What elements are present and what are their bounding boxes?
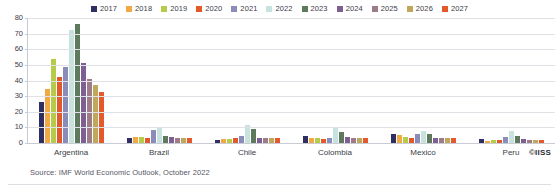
- gridline: [28, 112, 555, 113]
- legend-item-2023[interactable]: 2023: [302, 5, 328, 13]
- y-tickmark: [25, 81, 28, 82]
- grid-area: [27, 18, 555, 143]
- bar-colombia-2017[interactable]: [303, 136, 308, 143]
- plot-area: 01020304050607080 ArgentinaBrazilChileCo…: [0, 18, 559, 146]
- legend-item-2022[interactable]: 2022: [266, 5, 292, 13]
- legend-label: 2025: [381, 5, 398, 13]
- legend-swatch-icon: [196, 6, 202, 12]
- bar-argentina-2027[interactable]: [99, 92, 104, 143]
- bar-argentina-2018[interactable]: [45, 89, 50, 143]
- y-tickmark: [25, 143, 28, 144]
- iiss-copyright: ©IISS: [529, 148, 551, 157]
- bar-mexico-2018[interactable]: [397, 135, 402, 143]
- y-tickmark: [25, 65, 28, 66]
- y-tickmark: [25, 112, 28, 113]
- y-tickmark: [25, 34, 28, 35]
- legend-item-2020[interactable]: 2020: [196, 5, 222, 13]
- bar-argentina-2023[interactable]: [75, 24, 80, 143]
- gridline: [28, 65, 555, 66]
- legend-item-2024[interactable]: 2024: [337, 5, 363, 13]
- legend-item-2026[interactable]: 2026: [407, 5, 433, 13]
- legend-label: 2018: [135, 5, 152, 13]
- legend-swatch-icon: [302, 6, 308, 12]
- legend-item-2027[interactable]: 2027: [442, 5, 468, 13]
- x-axis-label-colombia: Colombia: [291, 146, 379, 160]
- y-tickmark: [25, 127, 28, 128]
- legend-item-2021[interactable]: 2021: [231, 5, 257, 13]
- bar-argentina-2022[interactable]: [69, 30, 74, 143]
- legend-label: 2022: [275, 5, 292, 13]
- legend-item-2018[interactable]: 2018: [126, 5, 152, 13]
- legend-swatch-icon: [337, 6, 343, 12]
- bar-argentina-2017[interactable]: [39, 102, 44, 143]
- gridline: [28, 96, 555, 97]
- bar-mexico-2022[interactable]: [421, 131, 426, 144]
- legend-swatch-icon: [91, 6, 97, 12]
- y-tick-label: 70: [15, 30, 23, 38]
- legend-item-2017[interactable]: 2017: [91, 5, 117, 13]
- legend-swatch-icon: [442, 6, 448, 12]
- bar-brazil-2022[interactable]: [157, 128, 162, 143]
- y-tick-label: 50: [15, 61, 23, 69]
- x-axis-label-brazil: Brazil: [115, 146, 203, 160]
- legend-swatch-icon: [231, 6, 237, 12]
- x-axis-labels: ArgentinaBrazilChileColombiaMexicoPeru: [27, 146, 555, 160]
- legend-swatch-icon: [407, 6, 413, 12]
- legend-label: 2020: [205, 5, 222, 13]
- legend-swatch-icon: [126, 6, 132, 12]
- footer-divider: [8, 184, 551, 185]
- x-axis-label-argentina: Argentina: [27, 146, 115, 160]
- y-tickmark: [25, 49, 28, 50]
- source-note: Source: IMF World Economic Outlook, Octo…: [30, 168, 210, 177]
- legend-swatch-icon: [372, 6, 378, 12]
- legend-swatch-icon: [266, 6, 272, 12]
- bar-mexico-2017[interactable]: [391, 134, 396, 143]
- legend-item-2025[interactable]: 2025: [372, 5, 398, 13]
- bar-brazil-2023[interactable]: [163, 136, 168, 143]
- y-tick-label: 0: [19, 139, 23, 147]
- gridline: [28, 49, 555, 50]
- legend-label: 2027: [451, 5, 468, 13]
- legend-label: 2026: [416, 5, 433, 13]
- bar-peru-2023[interactable]: [515, 136, 520, 143]
- bar-chile-2023[interactable]: [251, 129, 256, 143]
- bar-colombia-2023[interactable]: [339, 132, 344, 143]
- gridline: [28, 81, 555, 82]
- legend-item-2019[interactable]: 2019: [161, 5, 187, 13]
- y-axis: 01020304050607080: [0, 18, 26, 143]
- bar-argentina-2024[interactable]: [81, 63, 86, 143]
- bar-argentina-2026[interactable]: [93, 85, 98, 143]
- legend-label: 2023: [311, 5, 328, 13]
- legend-label: 2017: [100, 5, 117, 13]
- legend-swatch-icon: [161, 6, 167, 12]
- bar-argentina-2021[interactable]: [63, 67, 68, 143]
- gridline: [28, 127, 555, 128]
- y-tick-label: 60: [15, 46, 23, 54]
- gridline: [28, 18, 555, 19]
- y-tickmark: [25, 96, 28, 97]
- y-tick-label: 30: [15, 92, 23, 100]
- bar-colombia-2022[interactable]: [333, 127, 338, 143]
- bar-mexico-2023[interactable]: [427, 134, 432, 143]
- bar-peru-2022[interactable]: [509, 131, 514, 143]
- y-tick-label: 80: [15, 14, 23, 22]
- x-axis-label-mexico: Mexico: [379, 146, 467, 160]
- chart-legend: 2017201820192020202120222023202420252026…: [0, 2, 559, 16]
- bar-brazil-2021[interactable]: [151, 130, 156, 143]
- gridline: [28, 34, 555, 35]
- gridline: [28, 143, 555, 144]
- legend-label: 2021: [240, 5, 257, 13]
- y-tick-label: 20: [15, 108, 23, 116]
- x-axis-label-chile: Chile: [203, 146, 291, 160]
- legend-label: 2019: [170, 5, 187, 13]
- bar-argentina-2019[interactable]: [51, 59, 56, 143]
- chart-container: 2017201820192020202120222023202420252026…: [0, 0, 559, 195]
- y-tick-label: 40: [15, 77, 23, 85]
- legend-label: 2024: [346, 5, 363, 13]
- bar-mexico-2021[interactable]: [415, 134, 420, 143]
- bar-argentina-2020[interactable]: [57, 77, 62, 143]
- bar-chile-2021[interactable]: [239, 136, 244, 143]
- y-tick-label: 10: [15, 124, 23, 132]
- y-tickmark: [25, 18, 28, 19]
